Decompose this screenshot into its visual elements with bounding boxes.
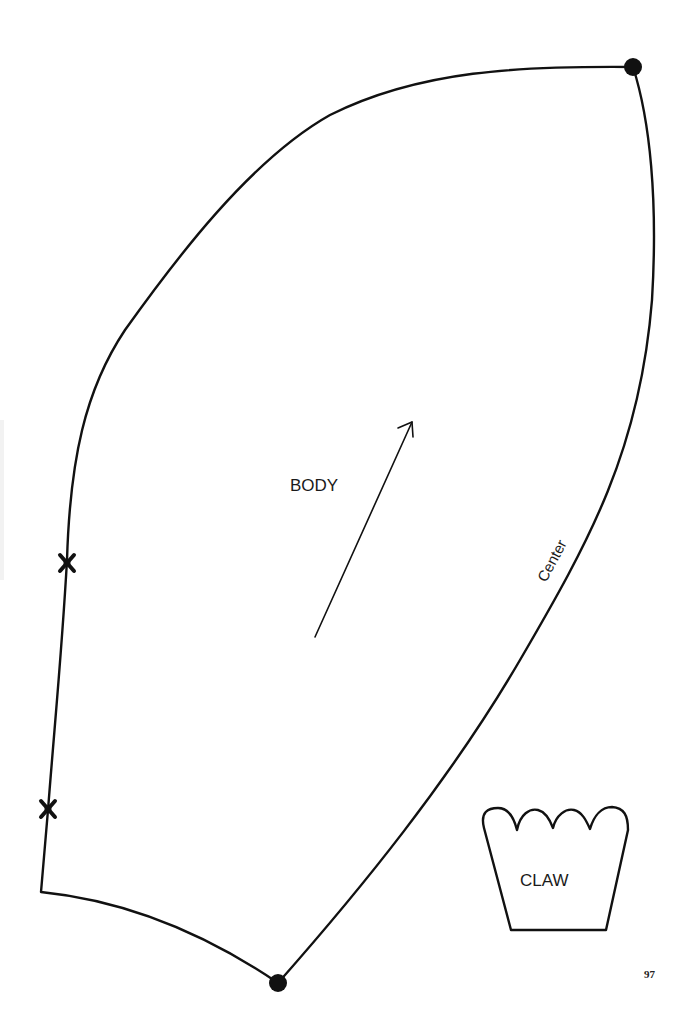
claw-outline bbox=[483, 807, 628, 930]
corner-dot-top-right bbox=[624, 58, 642, 76]
body-label: BODY bbox=[290, 476, 338, 495]
corner-dot-bottom bbox=[269, 974, 287, 992]
sewing-pattern-sheet: BODY Center CLAW 97 bbox=[0, 0, 689, 1036]
body-outline bbox=[41, 67, 654, 983]
center-label: Center bbox=[534, 537, 570, 585]
grainline-arrow bbox=[315, 422, 413, 637]
page-number: 97 bbox=[644, 968, 656, 980]
claw-pattern-piece: CLAW bbox=[483, 807, 628, 930]
body-pattern-piece: BODY Center bbox=[41, 58, 654, 992]
claw-label: CLAW bbox=[520, 871, 569, 890]
